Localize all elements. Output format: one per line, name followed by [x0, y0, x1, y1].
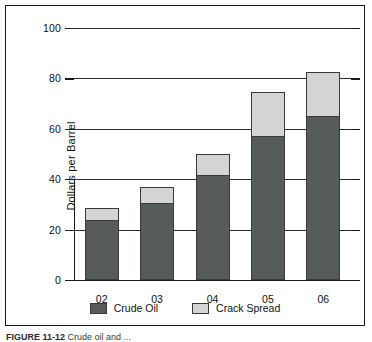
bar-segment-crack-spread-04[interactable]: [196, 154, 230, 175]
y-tick-right-0: [351, 280, 360, 281]
legend-item-crude-oil: Crude Oil: [90, 302, 158, 314]
y-tick-right-80: [351, 78, 360, 79]
legend-label-crude-oil: Crude Oil: [114, 302, 158, 314]
figure-frame: Dollars per Barrel 020406080100020304050…: [5, 5, 365, 326]
y-axis-spine: [74, 179, 75, 280]
gridline-100: [74, 28, 351, 29]
y-tick-0: [65, 280, 74, 281]
legend-label-crack-spread: Crack Spread: [216, 302, 280, 314]
bar-segment-crude-oil-05[interactable]: [251, 136, 285, 280]
y-tick-100: [65, 28, 74, 29]
y-axis-label-60: 60: [49, 123, 61, 135]
bar-segment-crude-oil-03[interactable]: [140, 203, 174, 280]
y-tick-right-60: [351, 129, 360, 130]
figure-caption-body: Crude oil and ...: [68, 333, 132, 342]
bar-segment-crack-spread-02[interactable]: [85, 208, 119, 219]
gridline-0: [74, 280, 351, 281]
bar-segment-crude-oil-04[interactable]: [196, 175, 230, 280]
crude-oil-swatch: [90, 303, 107, 314]
figure-caption-label: FIGURE 11-12: [6, 333, 65, 342]
chart-legend: Crude Oil Crack Spread: [6, 302, 364, 314]
bar-segment-crack-spread-03[interactable]: [140, 187, 174, 203]
bar-segment-crude-oil-02[interactable]: [85, 220, 119, 280]
bar-segment-crude-oil-06[interactable]: [306, 116, 340, 280]
figure-caption: FIGURE 11-12 Crude oil and ...: [6, 333, 306, 342]
legend-item-crack-spread: Crack Spread: [192, 302, 280, 314]
bar-segment-crack-spread-06[interactable]: [306, 72, 340, 116]
y-tick-right-100: [351, 28, 360, 29]
y-axis-label-20: 20: [49, 224, 61, 236]
y-axis-label-80: 80: [49, 72, 61, 84]
bar-group-03[interactable]: 03: [140, 187, 174, 280]
bar-group-04[interactable]: 04: [196, 154, 230, 280]
y-axis-label-100: 100: [43, 22, 61, 34]
bar-group-02[interactable]: 02: [85, 208, 119, 280]
bar-group-05[interactable]: 05: [251, 92, 285, 280]
crack-spread-swatch: [192, 303, 209, 314]
figure-caption-text: FIGURE 11-12 Crude oil and ...: [6, 333, 306, 342]
y-axis-label-0: 0: [55, 274, 61, 286]
y-axis-label-40: 40: [49, 173, 61, 185]
y-tick-right-20: [351, 230, 360, 231]
y-tick-right-40: [351, 179, 360, 180]
bar-segment-crack-spread-05[interactable]: [251, 92, 285, 136]
y-tick-80: [65, 78, 74, 79]
bar-group-06[interactable]: 06: [306, 72, 340, 280]
y-tick-60: [65, 129, 74, 130]
plot-area: 0204060801000203040506: [74, 28, 351, 280]
